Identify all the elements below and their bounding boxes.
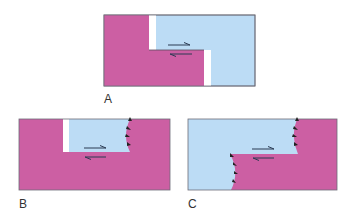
panel-a [104, 15, 255, 86]
panel-label-a: A [104, 92, 112, 106]
panel-c [188, 117, 337, 190]
panel-label-b: B [19, 197, 27, 211]
diagram-canvas [0, 0, 356, 219]
panel-b [19, 117, 170, 190]
panel-label-c: C [188, 197, 197, 211]
